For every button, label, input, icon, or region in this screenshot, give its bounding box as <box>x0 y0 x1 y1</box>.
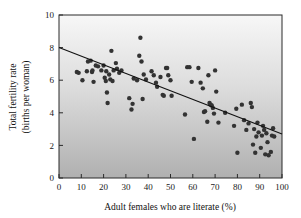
data-point <box>189 80 193 84</box>
x-tick-label: 60 <box>188 182 198 192</box>
x-tick-label: 80 <box>233 182 243 192</box>
data-point <box>114 61 118 65</box>
y-axis-title-line2: (births per woman) <box>21 61 32 134</box>
data-point <box>162 93 166 97</box>
data-point <box>109 49 113 53</box>
x-tick-label: 50 <box>166 182 176 192</box>
data-point <box>91 80 95 84</box>
data-point <box>212 111 216 115</box>
data-point <box>253 151 257 155</box>
data-point <box>139 59 143 63</box>
x-tick-label: 100 <box>275 182 289 192</box>
data-point <box>249 101 253 105</box>
data-point <box>250 105 254 109</box>
data-point <box>187 65 191 69</box>
data-point <box>203 109 207 113</box>
data-point <box>196 66 200 70</box>
y-tick-label: 4 <box>50 108 55 118</box>
x-tick-label: 70 <box>211 182 221 192</box>
data-point <box>216 120 220 124</box>
data-point <box>213 68 217 72</box>
data-point <box>206 73 210 77</box>
data-point <box>264 131 268 135</box>
data-point <box>214 89 218 93</box>
data-point <box>251 142 255 146</box>
y-tick-label: 10 <box>45 10 55 20</box>
data-point <box>76 71 80 75</box>
data-point <box>129 107 133 111</box>
data-point <box>260 133 264 137</box>
data-point <box>158 75 162 79</box>
data-point <box>192 137 196 141</box>
x-tick-label: 40 <box>144 182 154 192</box>
data-point <box>256 130 260 134</box>
data-point <box>259 146 263 150</box>
data-point <box>107 72 111 76</box>
data-point <box>252 127 256 131</box>
x-tick-label: 10 <box>77 182 87 192</box>
y-axis-title-line1: Total fertility rate <box>8 64 18 131</box>
data-point <box>165 66 169 70</box>
data-point <box>254 134 258 138</box>
y-tick-label: 0 <box>50 173 55 183</box>
x-axis-title: Adult females who are literate (%) <box>104 202 236 213</box>
data-point <box>272 134 276 138</box>
y-tick-label: 8 <box>50 43 55 53</box>
data-point <box>80 78 84 82</box>
data-point <box>105 90 109 94</box>
data-point <box>104 79 108 83</box>
data-point <box>235 151 239 155</box>
data-point <box>168 78 172 82</box>
figure-container: 0102030405060708090100 0246810 Adult fem… <box>0 0 301 218</box>
data-point <box>152 73 156 77</box>
x-tick-label: 30 <box>121 182 131 192</box>
data-point <box>140 97 144 101</box>
data-point <box>234 107 238 111</box>
y-tick-label: 2 <box>50 141 55 151</box>
data-point <box>240 102 244 106</box>
data-point <box>205 120 209 124</box>
data-point <box>269 150 273 154</box>
data-point <box>99 68 103 72</box>
x-tick-label: 0 <box>57 182 62 192</box>
data-point <box>201 86 205 90</box>
data-point <box>232 124 236 128</box>
data-point <box>85 69 89 73</box>
data-point <box>138 36 142 40</box>
data-point <box>198 80 202 84</box>
data-point <box>244 128 248 132</box>
x-tick-label: 90 <box>255 182 265 192</box>
data-point <box>169 93 173 97</box>
data-point <box>149 69 153 73</box>
data-point <box>105 101 109 105</box>
data-point <box>142 72 146 76</box>
scatter-plot: 0102030405060708090100 0246810 Adult fem… <box>0 0 301 218</box>
data-point <box>183 112 187 116</box>
data-point <box>265 140 269 144</box>
x-tick-label: 20 <box>99 182 109 192</box>
data-point <box>127 96 131 100</box>
data-point <box>90 68 94 72</box>
y-tick-label: 6 <box>50 75 55 85</box>
data-point <box>110 79 114 83</box>
data-point <box>96 64 100 68</box>
data-point <box>130 102 134 106</box>
data-point <box>166 73 170 77</box>
data-point <box>137 54 141 58</box>
